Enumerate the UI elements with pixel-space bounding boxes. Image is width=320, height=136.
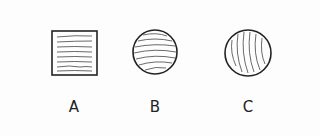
label-c: C: [243, 98, 253, 116]
figure-b-circle: [133, 30, 177, 74]
label-b: B: [150, 98, 160, 116]
label-a: A: [69, 98, 79, 116]
figure-a-square: [52, 31, 97, 75]
figure-c-circle: [225, 30, 271, 76]
